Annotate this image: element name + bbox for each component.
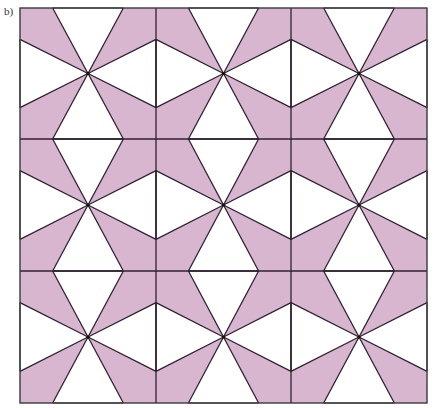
centre-point	[86, 203, 89, 206]
tiling-pattern	[0, 0, 438, 408]
centre-point	[222, 203, 225, 206]
centre-point	[357, 72, 360, 75]
centre-point	[222, 335, 225, 338]
centre-point	[86, 72, 89, 75]
centre-point	[86, 335, 89, 338]
centre-point	[357, 335, 360, 338]
centre-point	[222, 72, 225, 75]
centre-point	[357, 203, 360, 206]
